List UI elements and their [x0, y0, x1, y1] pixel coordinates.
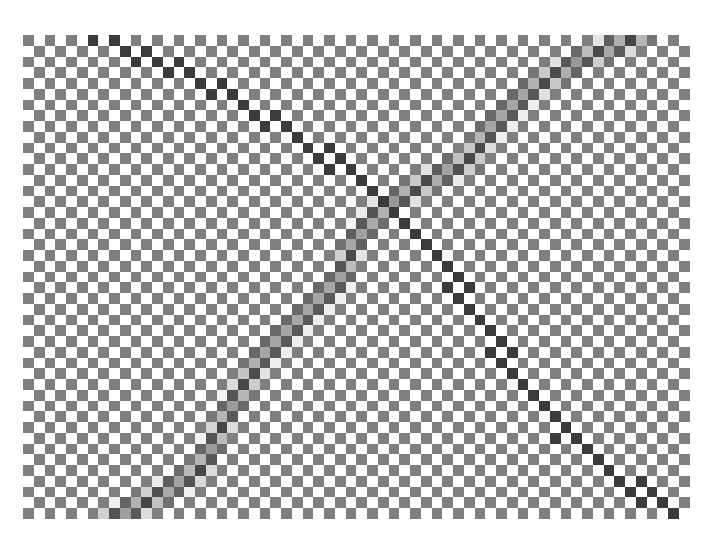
checkerboard-image [0, 0, 713, 550]
checkerboard-canvas [0, 0, 713, 550]
